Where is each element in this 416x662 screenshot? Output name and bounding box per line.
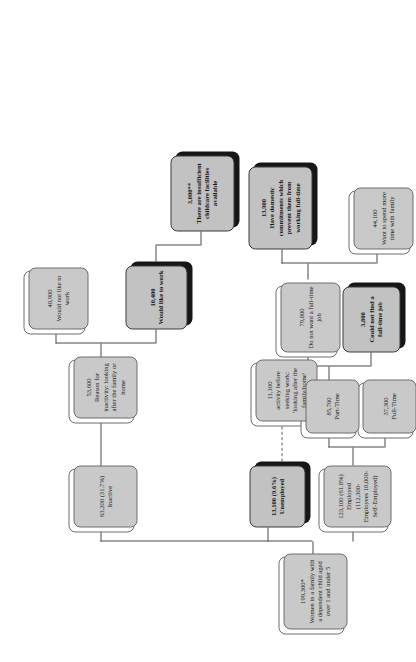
edge-dontwant-trunk xyxy=(281,262,376,263)
node-root-label: Women in a family with a dependent child… xyxy=(307,559,331,623)
edge-inactive-to-reason xyxy=(100,418,101,472)
edge-wouldlike-to-childcare xyxy=(200,231,201,245)
node-inactive-label: Inactive xyxy=(105,485,112,506)
node-employed[interactable]: 123,100 (61.8%) Employed (112,300-Employ… xyxy=(323,465,391,527)
node-dontwant-number: 79,800 xyxy=(297,286,305,348)
node-could-not-find-full-time[interactable]: 3,800 Could not find a full-time job xyxy=(342,286,400,352)
edge-root-trunk xyxy=(100,540,312,541)
node-moretime-label: Want to spend more time with family xyxy=(379,192,394,245)
node-unemployed-label: Unemployed xyxy=(277,478,284,514)
node-notlike-label: Would not like to work xyxy=(54,275,69,321)
edge-wouldlike-out xyxy=(155,245,156,261)
node-insufficient-childcare[interactable]: 3,000** There are insufficient childcare… xyxy=(170,155,234,231)
node-more-time-with-family[interactable]: 44,100 Want to spend more time with fami… xyxy=(353,187,413,249)
node-activity-label: activity before seeking work: 'looking a… xyxy=(273,368,305,413)
node-moretime-number: 44,100 xyxy=(370,191,378,245)
node-parttime-number: 85,700 xyxy=(324,383,332,429)
node-fulltime-label: Full-Time xyxy=(389,393,396,420)
node-couldnot-label: Could not find a full-time job xyxy=(367,296,382,342)
node-employed-number: 123,100 (61.8%) xyxy=(336,469,344,523)
node-wouldlike-number: 10,400 xyxy=(148,269,156,325)
node-activity-number: 11,100 xyxy=(265,363,273,417)
node-root-number: 199,300* xyxy=(298,557,306,625)
node-domestic-number: 13,900 xyxy=(259,170,267,245)
node-domestic-commitments[interactable]: 13,900 Have domestic commitments which p… xyxy=(248,166,312,249)
node-notlike-number: 40,900 xyxy=(45,271,53,325)
edge-employed-out xyxy=(352,447,353,465)
node-would-not-like-to-work[interactable]: 40,900 Would not like to work xyxy=(28,267,88,329)
node-parttime-label: Part-Time xyxy=(332,393,339,420)
node-full-time[interactable]: 37,300 Full-Time xyxy=(362,379,416,433)
node-do-not-want-full-time[interactable]: 79,800 Do not want a full-time job xyxy=(280,282,340,352)
node-domestic-label: Have domestic commitments which prevent … xyxy=(267,179,299,236)
node-inactive-number: 63,200 (31.7%) xyxy=(97,469,105,523)
node-reason-number: 53,600 xyxy=(84,360,92,414)
edge-wouldlike-trunk xyxy=(155,244,200,245)
node-fulltime-number: 37,300 xyxy=(381,383,389,429)
node-childcare-label: There are insufficient childcare facilit… xyxy=(194,163,218,224)
edge-dontwant-to-domestic xyxy=(281,249,282,263)
node-inactive[interactable]: 63,200 (31.7%) Inactive xyxy=(73,465,137,527)
node-would-like-to-work[interactable]: 10,400 Would like to work xyxy=(125,265,187,329)
node-employed-label: Employed (112,300-Employees 10,000-Self-… xyxy=(344,470,376,521)
edge-reason-to-wouldlike xyxy=(155,329,156,343)
edge-root-to-unemployed xyxy=(267,527,268,541)
node-unemployed[interactable]: 13,100 (9.6%) Unemployed xyxy=(249,465,305,527)
edge-reason-trunk xyxy=(55,342,155,343)
edge-employed-trunk xyxy=(328,446,384,447)
node-childcare-number: 3,000** xyxy=(185,159,193,227)
node-reason-label: Reason for inactivity: looking after the… xyxy=(92,363,124,412)
node-unemployed-number: 13,100 (9.6%) xyxy=(269,469,277,523)
node-part-time[interactable]: 85,700 Part-Time xyxy=(305,379,359,433)
node-wouldlike-label: Would like to work xyxy=(156,270,163,324)
node-dontwant-label: Do not want a full-time job xyxy=(306,286,321,348)
edge-dontwant-out xyxy=(307,263,308,279)
node-couldnot-number: 3,800 xyxy=(358,290,366,348)
node-reason-for-inactivity[interactable]: 53,600 Reason for inactivity: looking af… xyxy=(73,356,137,418)
edge-unemployed-to-activity xyxy=(281,426,282,461)
edge-parttime-to-couldnot xyxy=(370,352,371,366)
node-root[interactable]: 199,300* Women in a family with a depend… xyxy=(283,553,347,629)
